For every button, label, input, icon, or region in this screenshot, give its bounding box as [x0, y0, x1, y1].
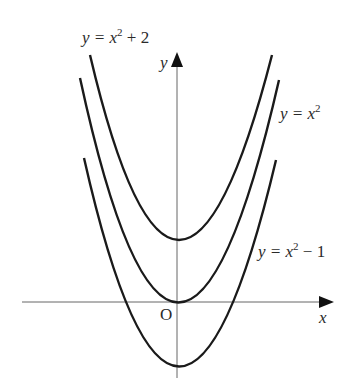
curve-x2-minus-1 — [84, 158, 276, 367]
x-axis-arrow-icon — [319, 296, 334, 308]
parabola-diagram: y = x2 + 2 y = x2 y = x2 − 1 y x O — [0, 0, 364, 390]
y-axis-arrow-icon — [171, 52, 183, 67]
y-axis-label: y — [158, 53, 168, 72]
x-axis-label: x — [318, 308, 327, 327]
label-x2-minus-1: y = x2 − 1 — [256, 240, 325, 261]
origin-label: O — [160, 305, 172, 324]
curve-x2-plus-2 — [90, 55, 272, 240]
curve-x2 — [80, 78, 279, 303]
label-x2: y = x2 — [278, 102, 321, 123]
label-x2-plus-2: y = x2 + 2 — [80, 26, 149, 47]
